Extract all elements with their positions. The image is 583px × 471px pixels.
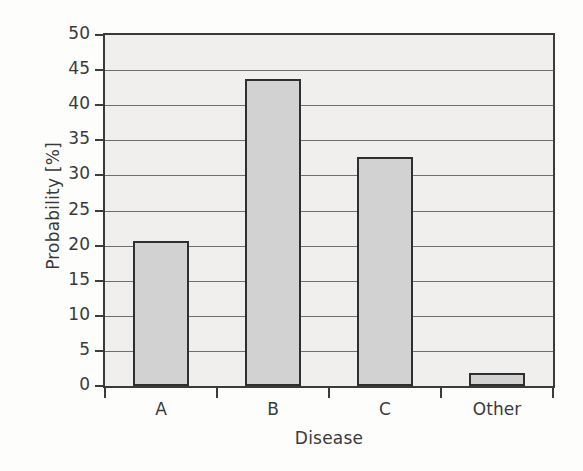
y-axis-tick-mark [95,69,104,71]
y-axis-tick-label: 45 [44,58,90,78]
y-axis-tick-label: 35 [44,128,90,148]
plot-area [103,33,555,388]
y-axis-tick-mark [95,104,104,106]
y-axis-tick-label: 10 [44,304,90,324]
x-axis-tick-label: B [217,399,330,419]
y-axis-tick-label: 5 [44,339,90,359]
y-axis-tick-label: 50 [44,23,90,43]
y-axis-tick-label: 20 [44,234,90,254]
bar-chart-figure: Probability [%] 05101520253035404550 ABC… [0,0,583,471]
y-axis-tick-label: 15 [44,269,90,289]
x-axis-tick-mark [216,388,218,398]
y-axis-tick-mark [95,315,104,317]
y-axis-tick-mark [95,350,104,352]
y-axis-tick-mark [95,280,104,282]
x-axis-tick-mark [440,388,442,398]
bar-series [105,35,553,386]
y-axis-tick-mark [95,385,104,387]
y-axis-tick-label: 40 [44,93,90,113]
bar [245,79,301,386]
y-axis-tick-mark [95,210,104,212]
y-axis-tick-mark [95,34,104,36]
bar [469,373,525,386]
y-axis-tick-mark [95,139,104,141]
x-axis-tick-label: A [105,399,218,419]
x-axis-tick-label: Other [441,399,554,419]
bar [133,241,189,386]
y-axis-tick-label: 30 [44,163,90,183]
x-axis-tick-mark [328,388,330,398]
y-axis-tick-label: 0 [44,374,90,394]
y-axis-tick-label: 25 [44,199,90,219]
x-axis-tick-label: C [329,399,442,419]
x-axis-tick-mark [552,388,554,398]
x-axis-title: Disease [103,428,555,448]
y-axis-tick-mark [95,174,104,176]
x-axis-tick-mark [104,388,106,398]
bar [357,157,413,386]
y-axis-tick-labels: 05101520253035404550 [44,33,90,388]
y-axis-tick-mark [95,245,104,247]
